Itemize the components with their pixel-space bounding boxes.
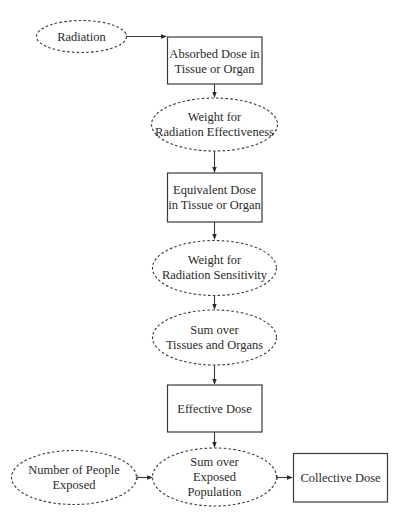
node-absorbed-dose: Absorbed Dose in Tissue or Organ (168, 37, 263, 84)
node-equivalent-dose-line-2: in Tissue or Organ (168, 198, 261, 212)
node-equivalent-dose-line-1: Equivalent Dose (173, 183, 256, 197)
node-absorbed-dose-line-1: Absorbed Dose in (169, 47, 260, 61)
edge-weight-sensitivity-to-sum-tissues (212, 296, 216, 310)
edge-sum-population-to-collective-dose (277, 475, 293, 480)
edge-effective-dose-to-sum-population (212, 432, 216, 448)
edge-weight-effectiveness-to-equivalent (212, 151, 216, 173)
edge-sum-tissues-to-effective-dose (212, 365, 216, 385)
node-effective-dose-label: Effective Dose (177, 402, 252, 416)
node-sum-population: Sum over Exposed Population (153, 448, 277, 506)
node-number-people-line-1: Number of People (28, 463, 120, 477)
node-sum-tissues-line-1: Sum over (190, 323, 239, 337)
node-number-people-line-2: Exposed (52, 478, 96, 492)
node-number-people: Number of People Exposed (12, 451, 137, 505)
edge-radiation-to-absorbed-dose (126, 34, 167, 39)
node-weight-effectiveness-line-1: Weight for (188, 110, 242, 124)
node-radiation: Radiation (37, 21, 127, 53)
node-sum-population-line-3: Population (187, 485, 242, 499)
node-radiation-label: Radiation (57, 30, 106, 44)
node-weight-effectiveness-line-2: Radiation Effectiveness (155, 125, 274, 139)
edge-number-people-to-sum-population (137, 475, 153, 480)
node-absorbed-dose-line-2: Tissue or Organ (175, 62, 256, 76)
node-equivalent-dose: Equivalent Dose in Tissue or Organ (168, 173, 263, 222)
node-weight-sensitivity-line-2: Radiation Sensitivity (162, 268, 268, 282)
radiation-dose-flowchart: Radiation Absorbed Dose in Tissue or Org… (0, 0, 401, 523)
node-sum-population-line-2: Exposed (193, 470, 237, 484)
node-weight-effectiveness: Weight for Radiation Effectiveness (152, 98, 278, 151)
edge-equivalent-to-weight-sensitivity (212, 222, 216, 240)
node-sum-population-line-1: Sum over (190, 455, 239, 469)
node-effective-dose: Effective Dose (168, 385, 263, 432)
node-weight-sensitivity-line-1: Weight for (188, 253, 242, 267)
node-sum-tissues: Sum over Tissues and Organs (153, 310, 277, 365)
node-collective-dose: Collective Dose (294, 454, 388, 503)
node-sum-tissues-line-2: Tissues and Organs (166, 338, 263, 352)
node-collective-dose-label: Collective Dose (300, 471, 381, 485)
node-weight-sensitivity: Weight for Radiation Sensitivity (153, 241, 277, 296)
edge-absorbed-to-weight-effectiveness (212, 84, 216, 98)
